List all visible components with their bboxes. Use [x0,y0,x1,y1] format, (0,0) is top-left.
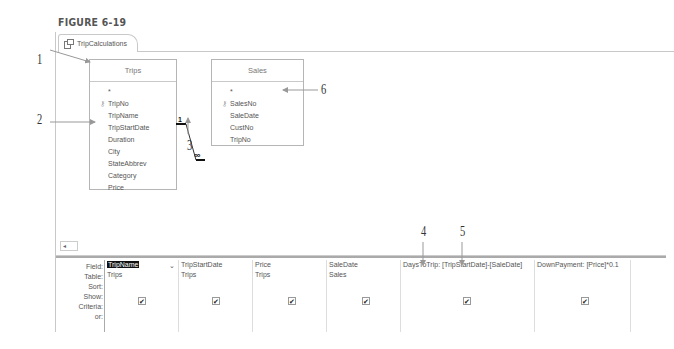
pane-splitter[interactable] [56,255,666,258]
field-item[interactable]: City [108,146,176,158]
show-checkbox[interactable]: ✔ [212,297,220,305]
field-cell[interactable]: DownPayment: [Price]*0.1 [537,260,630,270]
table-cell[interactable] [537,270,630,280]
tab-label: TripCalculations [77,40,127,47]
field-item[interactable]: Duration [108,134,176,146]
callout-2: 2 [37,112,42,128]
field-item[interactable]: SaleDate [230,110,303,122]
field-item[interactable]: Price [108,182,176,194]
field-item[interactable]: ⚷SalesNo [230,98,303,110]
many-side-marker: ∞ [194,150,200,160]
field-cell[interactable]: TripName [107,261,139,268]
field-item[interactable]: TripName [108,110,176,122]
tab-divider [138,51,674,52]
field-item[interactable]: Category [108,170,176,182]
row-label-table: Table: [56,272,103,282]
field-item[interactable]: TripStartDate [108,122,176,134]
field-item[interactable]: * [230,86,303,98]
field-item[interactable]: StateAbbrev [108,158,176,170]
table-cell[interactable]: Sales [329,270,400,280]
primary-key-icon: ⚷ [100,98,105,110]
callout-3: 3 [187,138,192,154]
show-checkbox[interactable]: ✔ [362,297,370,305]
table-cell[interactable]: Trips [107,270,178,280]
field-item[interactable]: CustNo [230,122,303,134]
callout-4: 4 [421,224,426,240]
table-title-trips[interactable]: Trips [90,60,176,82]
field-item[interactable]: TripNo [230,134,303,146]
field-cell[interactable]: TripStartDate [181,260,252,270]
field-item[interactable]: ⚷TripNo [108,98,176,110]
row-label-or: or: [56,312,103,322]
callout-6: 6 [321,82,326,98]
field-list-trips[interactable]: Trips * ⚷TripNo TripName TripStartDate D… [89,59,177,190]
grid-column[interactable]: SaleDate Sales ✔ [327,260,401,332]
callout-1: 1 [37,52,42,68]
show-checkbox[interactable]: ✔ [288,297,296,305]
primary-key-icon: ⚷ [222,98,227,110]
figure-title: FIGURE 6-19 [58,16,126,29]
table-cell[interactable] [403,270,534,280]
dropdown-arrow-icon[interactable]: ⌄ [169,261,175,271]
table-cell[interactable]: Trips [181,270,252,280]
show-checkbox[interactable]: ✔ [138,297,146,305]
table-cell[interactable]: Trips [255,270,326,280]
row-labels: Field: Table: Sort: Show: Criteria: or: [56,262,103,322]
field-list-sales[interactable]: Sales * ⚷SalesNo SaleDate CustNo TripNo [211,59,304,146]
field-cell[interactable]: SaleDate [329,260,400,270]
grid-column[interactable]: DaysToTrip: [TripStartDate]-[SaleDate] ✔ [401,260,535,332]
show-checkbox[interactable]: ✔ [581,297,589,305]
row-label-show: Show: [56,292,103,302]
one-side-marker: 1 [178,116,182,123]
query-design-grid: Field: Table: Sort: Show: Criteria: or: … [56,260,674,332]
query-design-window: TripCalculations Trips * ⚷TripNo TripNam… [55,32,673,332]
row-label-field: Field: [56,262,103,272]
grid-column[interactable]: TripName⌄ Trips ✔ [105,260,179,332]
field-item[interactable]: * [108,86,176,98]
grid-column[interactable]: DownPayment: [Price]*0.1 ✔ [535,260,631,332]
grid-column[interactable]: TripStartDate Trips ✔ [179,260,253,332]
table-title-sales[interactable]: Sales [212,60,303,82]
row-label-sort: Sort: [56,282,103,292]
tab-tripcalculations[interactable]: TripCalculations [58,34,138,52]
query-icon [63,39,72,48]
scroll-left-button[interactable]: ◂ [60,241,78,251]
callout-5: 5 [460,224,465,240]
field-cell[interactable]: Price [255,260,326,270]
row-label-criteria: Criteria: [56,302,103,312]
show-checkbox[interactable]: ✔ [463,297,471,305]
field-cell[interactable]: DaysToTrip: [TripStartDate]-[SaleDate] [403,260,534,270]
grid-column[interactable]: Price Trips ✔ [253,260,327,332]
